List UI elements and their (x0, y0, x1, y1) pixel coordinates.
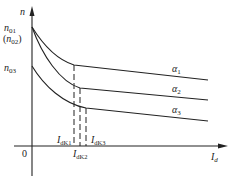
curve-alpha2 (32, 27, 208, 100)
y-axis-arrow-icon (30, 6, 35, 16)
curve-alpha1 (32, 27, 208, 80)
curves (32, 27, 208, 121)
label-idk2: IdK2 (72, 148, 88, 160)
y-axis-label: n (20, 6, 25, 17)
label-idk3: IdK3 (90, 134, 106, 146)
label-alpha3: α3 (172, 104, 181, 117)
x-axis-label: Id (210, 151, 218, 164)
speed-current-diagram: n n01 (n02) n03 α1 α2 α3 IdK1 IdK2 IdK3 … (0, 0, 231, 178)
curve-alpha3 (32, 66, 208, 121)
tick-n03: n03 (4, 62, 17, 75)
x-axis-arrow-icon (218, 144, 228, 149)
diagram-svg: n n01 (n02) n03 α1 α2 α3 IdK1 IdK2 IdK3 … (0, 0, 231, 178)
label-alpha1: α1 (172, 63, 181, 76)
axes (14, 12, 222, 176)
label-alpha2: α2 (172, 83, 181, 96)
origin-label: 0 (22, 148, 27, 159)
label-idk1: IdK1 (56, 134, 72, 146)
